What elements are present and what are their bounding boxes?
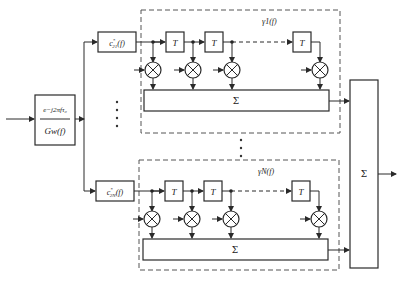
multiplier-icon xyxy=(185,62,201,78)
branch-ellipsis-mid xyxy=(240,139,242,157)
branch-1: c*21(f) γ1(f) T T T xyxy=(98,10,349,133)
gamma-label-1: γ1(f) xyxy=(262,17,277,26)
tap-down xyxy=(311,42,320,62)
multiplier-icon xyxy=(224,62,240,78)
multiplier-icon xyxy=(223,211,239,227)
branch-N: c*2N(f) γN(f) T T T xyxy=(96,160,349,270)
input-filter-box xyxy=(35,95,75,145)
multiplier-icon xyxy=(145,62,161,78)
multiplier-icon xyxy=(311,211,327,227)
input-filter-denominator: Gw(f) xyxy=(45,126,66,136)
coef-label-N: c*2N(f) xyxy=(107,187,124,198)
sum-label-N: Σ xyxy=(232,245,238,255)
gamma-group-box-1 xyxy=(141,10,340,133)
sum-label-1: Σ xyxy=(233,96,239,106)
input-filter-numerator: e−j2πfτ₀ xyxy=(43,106,67,114)
block-diagram: e−j2πfτ₀ Gw(f) c*21(f) γ1(f) T T xyxy=(0,0,404,286)
tap-down xyxy=(310,191,319,211)
final-sum-label: Σ xyxy=(361,169,367,179)
multiplier-icon xyxy=(144,211,160,227)
coef-label-1: c*21(f) xyxy=(109,38,125,49)
multiplier-icon xyxy=(312,62,328,78)
multiplier-icon xyxy=(184,211,200,227)
gamma-label-N: γN(f) xyxy=(258,167,274,176)
branch-ellipsis-left xyxy=(116,101,118,127)
